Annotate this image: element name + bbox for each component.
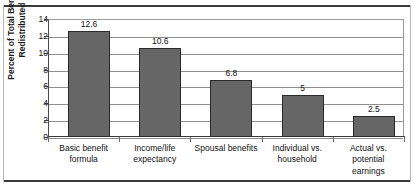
gridline bbox=[49, 138, 403, 139]
y-axis-tick-label: 4 bbox=[10, 99, 48, 108]
y-axis-tick-label: 12 bbox=[10, 32, 48, 41]
bar bbox=[210, 80, 252, 137]
bar bbox=[68, 31, 110, 137]
x-axis-tick-mark bbox=[333, 137, 334, 142]
x-axis-category-label: Spousal benefits bbox=[190, 143, 261, 154]
x-axis-tick-mark bbox=[404, 137, 405, 142]
x-axis-category-label: Income/lifeexpectancy bbox=[119, 143, 190, 166]
figure-frame-top-rule bbox=[3, 5, 411, 7]
figure-frame-right-rule bbox=[410, 5, 411, 182]
x-axis-tick-mark bbox=[119, 137, 120, 142]
bar-category-slot: 10.6 bbox=[119, 19, 190, 137]
x-axis-category-label: Actual vs.potentialearnings bbox=[333, 143, 404, 177]
bar-category-slot: 12.6 bbox=[48, 19, 119, 137]
x-axis-category-label-line: Income/life bbox=[119, 143, 190, 154]
bar bbox=[353, 116, 395, 137]
bar-category-slot: 6.8 bbox=[190, 19, 261, 137]
y-axis-tick-label: 14 bbox=[10, 15, 48, 24]
bar-value-label: 5 bbox=[282, 84, 324, 93]
x-axis-category-label-line: household bbox=[262, 154, 333, 165]
x-axis-category-label-line: expectancy bbox=[119, 154, 190, 165]
x-axis-category-label: Basic benefitformula bbox=[48, 143, 119, 166]
bar-value-label: 2.5 bbox=[353, 105, 395, 114]
y-axis-tick-label: 0 bbox=[10, 133, 48, 142]
y-axis-tick-label: 8 bbox=[10, 65, 48, 74]
x-axis-category-label-line: potential bbox=[333, 154, 404, 165]
x-axis-category-label-line: Individual vs. bbox=[262, 143, 333, 154]
x-axis-category-label-line: Basic benefit bbox=[48, 143, 119, 154]
bar bbox=[139, 48, 181, 137]
bar-value-label: 6.8 bbox=[210, 69, 252, 78]
bar-value-label: 10.6 bbox=[139, 37, 181, 46]
bar-value-label: 12.6 bbox=[68, 20, 110, 29]
x-axis-category-label-line: Spousal benefits bbox=[190, 143, 261, 154]
x-axis-category-label-line: Actual vs. bbox=[333, 143, 404, 154]
bar-category-slot: 2.5 bbox=[333, 19, 404, 137]
x-axis-category-label: Individual vs.household bbox=[262, 143, 333, 166]
x-axis-category-label-line: earnings bbox=[333, 166, 404, 177]
y-axis-tick-label: 6 bbox=[10, 82, 48, 91]
bar bbox=[282, 95, 324, 137]
bar-category-slot: 5 bbox=[262, 19, 333, 137]
x-axis-category-label-line: formula bbox=[48, 154, 119, 165]
x-axis-tick-mark bbox=[262, 137, 263, 142]
x-axis-tick-mark bbox=[190, 137, 191, 142]
y-axis-tick-label: 10 bbox=[10, 48, 48, 57]
bar-series: 12.610.66.852.5 bbox=[48, 19, 404, 137]
bar-chart-figure: Percent of Total Benefits Redistributed … bbox=[0, 0, 414, 186]
figure-frame-bottom-rule bbox=[3, 180, 411, 182]
x-axis-tick-mark bbox=[48, 137, 49, 142]
y-axis: 02468101214 bbox=[0, 0, 48, 186]
y-axis-tick-label: 2 bbox=[10, 116, 48, 125]
